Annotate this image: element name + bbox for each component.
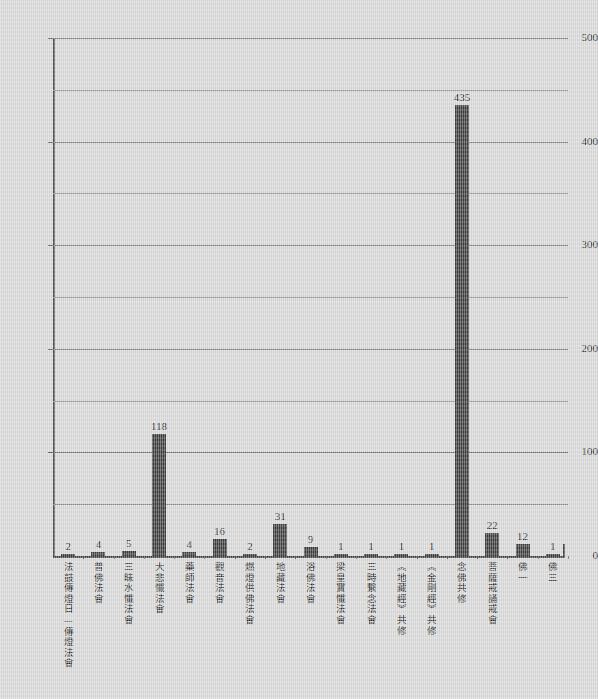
x-axis-line — [53, 556, 565, 558]
bar-value-label: 5 — [126, 537, 132, 549]
bar-rect[interactable] — [152, 434, 166, 556]
x-axis-tick-mark — [356, 556, 357, 559]
x-axis-tick-mark — [174, 556, 175, 559]
x-axis-category-label: 《地藏經》共修 — [395, 562, 406, 636]
y-axis-tick-mark — [48, 142, 53, 143]
x-axis-tick-mark — [417, 556, 418, 559]
bar-value-label: 4 — [187, 538, 193, 550]
bar-rect[interactable] — [91, 552, 105, 556]
bar-rect[interactable] — [182, 552, 196, 556]
x-axis-tick-mark — [265, 556, 266, 559]
x-axis-category-label: 三時繫念法會 — [365, 562, 376, 626]
bar-value-label: 22 — [487, 519, 498, 531]
gridline-minor — [53, 504, 568, 505]
bar-value-label: 9 — [308, 533, 314, 545]
bar-item[interactable]: 5 — [122, 537, 136, 556]
bar-item[interactable]: 2 — [243, 540, 257, 557]
gridline-minor — [53, 90, 568, 91]
bar-rect[interactable] — [425, 554, 439, 557]
bar-item[interactable]: 22 — [485, 519, 499, 556]
bar-item[interactable]: 435 — [455, 91, 469, 556]
gridline-major — [53, 452, 568, 453]
y-axis-tick-label: 200 — [554, 343, 598, 354]
x-axis-category-label: 浴佛法會 — [305, 562, 316, 604]
bar-rect[interactable] — [485, 533, 499, 556]
bar-rect[interactable] — [243, 554, 257, 557]
y-axis-tick-mark — [48, 452, 53, 453]
bar-item[interactable]: 9 — [304, 533, 318, 556]
bar-item[interactable]: 31 — [273, 510, 287, 556]
y-axis-tick-label: 500 — [554, 32, 598, 43]
bar-item[interactable]: 2 — [61, 540, 75, 557]
bar-rect[interactable] — [61, 554, 75, 557]
bar-chart: 2451184162319111143522121 01002003004005… — [0, 0, 598, 699]
x-axis-tick-mark — [538, 556, 539, 559]
x-axis-tick-mark — [477, 556, 478, 559]
bar-value-label: 1 — [368, 540, 374, 552]
bar-value-label: 2 — [247, 540, 253, 552]
bar-rect[interactable] — [394, 554, 408, 557]
bar-rect[interactable] — [516, 544, 530, 556]
gridline-minor — [53, 297, 568, 298]
gridline-minor — [53, 193, 568, 194]
y-axis-tick-label: 0 — [554, 550, 598, 561]
bar-rect[interactable] — [334, 554, 348, 557]
bar-value-label: 435 — [454, 91, 471, 103]
bar-item[interactable]: 1 — [334, 540, 348, 557]
x-axis-category-label: 地藏法會 — [274, 562, 285, 604]
x-axis-category-label: 藥師法會 — [183, 562, 194, 604]
x-axis-tick-mark — [447, 556, 448, 559]
y-axis-tick-label: 100 — [554, 446, 598, 457]
bar-item[interactable]: 118 — [152, 420, 166, 556]
plot-area: 2451184162319111143522121 — [53, 38, 568, 556]
x-axis-category-label: 佛一 — [517, 562, 528, 583]
bar-item[interactable]: 4 — [91, 538, 105, 556]
bar-value-label: 16 — [214, 525, 225, 537]
x-axis-tick-mark — [507, 556, 508, 559]
bar-item[interactable]: 1 — [364, 540, 378, 557]
y-axis-tick-mark — [48, 38, 53, 39]
x-axis-tick-mark — [386, 556, 387, 559]
bar-value-label: 12 — [517, 530, 528, 542]
x-axis-category-label: 佛三 — [547, 562, 558, 583]
x-axis-category-label: 觀音法會 — [214, 562, 225, 604]
x-axis-tick-mark — [235, 556, 236, 559]
x-axis-tick-mark — [295, 556, 296, 559]
x-axis-tick-mark — [83, 556, 84, 559]
bar-rect[interactable] — [364, 554, 378, 557]
bar-rect[interactable] — [213, 539, 227, 556]
bar-value-label: 118 — [151, 420, 167, 432]
x-axis-category-label: 《金剛經》共修 — [426, 562, 437, 636]
bar-rect[interactable] — [122, 551, 136, 556]
gridline-major — [53, 245, 568, 246]
bar-value-label: 1 — [338, 540, 344, 552]
bar-value-label: 1 — [429, 540, 435, 552]
x-axis-category-label: 念佛共修 — [456, 562, 467, 604]
x-axis-tick-mark — [114, 556, 115, 559]
bar-item[interactable]: 4 — [182, 538, 196, 556]
x-axis-tick-mark — [144, 556, 145, 559]
bar-item[interactable]: 1 — [394, 540, 408, 557]
bar-item[interactable]: 1 — [425, 540, 439, 557]
bar-item[interactable]: 16 — [213, 525, 227, 556]
x-axis-category-label: 法鼓傳燈日—傳燈法會 — [62, 562, 73, 669]
x-axis-tick-mark — [204, 556, 205, 559]
bar-value-label: 2 — [65, 540, 71, 552]
x-axis-category-label: 菩薩戒誦戒會 — [486, 562, 497, 626]
bar-value-label: 31 — [275, 510, 286, 522]
y-axis-tick-label: 400 — [554, 136, 598, 147]
x-axis-category-label: 燃燈供佛法會 — [244, 562, 255, 626]
gridline-major — [53, 142, 568, 143]
x-axis-category-label: 大悲懺法會 — [153, 562, 164, 615]
x-axis-category-label: 梁皇寶懺法會 — [335, 562, 346, 626]
y-axis-tick-mark — [48, 245, 53, 246]
bar-item[interactable]: 12 — [516, 530, 530, 556]
x-axis-category-label: 三昧水懺法會 — [123, 562, 134, 626]
bar-rect[interactable] — [273, 524, 287, 556]
bar-rect[interactable] — [304, 547, 318, 556]
y-axis-tick-label: 300 — [554, 239, 598, 250]
x-axis-tick-mark — [326, 556, 327, 559]
bar-rect[interactable] — [455, 105, 469, 556]
x-axis-category-label: 普佛法會 — [92, 562, 103, 604]
gridline-minor — [53, 401, 568, 402]
